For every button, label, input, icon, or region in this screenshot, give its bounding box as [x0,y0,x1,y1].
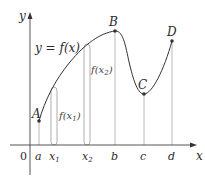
point-label-b: B [109,16,118,28]
point-label-a: A [32,108,41,120]
tick-label-x1: x1 [49,151,60,164]
bracket-label-f-x1-base: f(x [59,110,72,121]
point-b [113,29,117,33]
tick-label-a: a [35,151,42,162]
bracket-label-f-x1-close: ) [77,110,81,121]
bracket-label-f-x2-close: ) [109,64,113,75]
tick-label-d: d [168,151,175,162]
curve-label: y = f(x) [35,42,80,54]
x-axis-arrow-icon [190,143,197,148]
tick-label-b: b [111,151,118,162]
x-axis-label: x [196,150,203,162]
y-axis-label: y [19,10,26,22]
bracket-label-f-x1: f(x1) [59,111,81,123]
tick-label-x2-sub: 2 [88,156,92,164]
tick-label-x1-sub: 1 [55,156,59,164]
tick-label-c: c [140,151,146,162]
point-d [170,39,174,43]
point-c [142,92,146,96]
point-label-d: D [167,26,177,38]
point-label-c: C [138,79,147,91]
origin-label: 0 [20,151,27,162]
y-axis-arrow-icon [28,12,33,19]
bracket-label-f-x2-base: f(x [91,64,104,75]
bracket-f-x1 [51,87,57,145]
bracket-label-f-x2: f(x2) [91,65,113,77]
tick-label-x2: x2 [82,151,93,164]
function-graph-figure: y x 0 y = f(x) A B C D a x1 x2 b c d f(x… [0,0,205,178]
bracket-f-x2 [84,44,90,145]
